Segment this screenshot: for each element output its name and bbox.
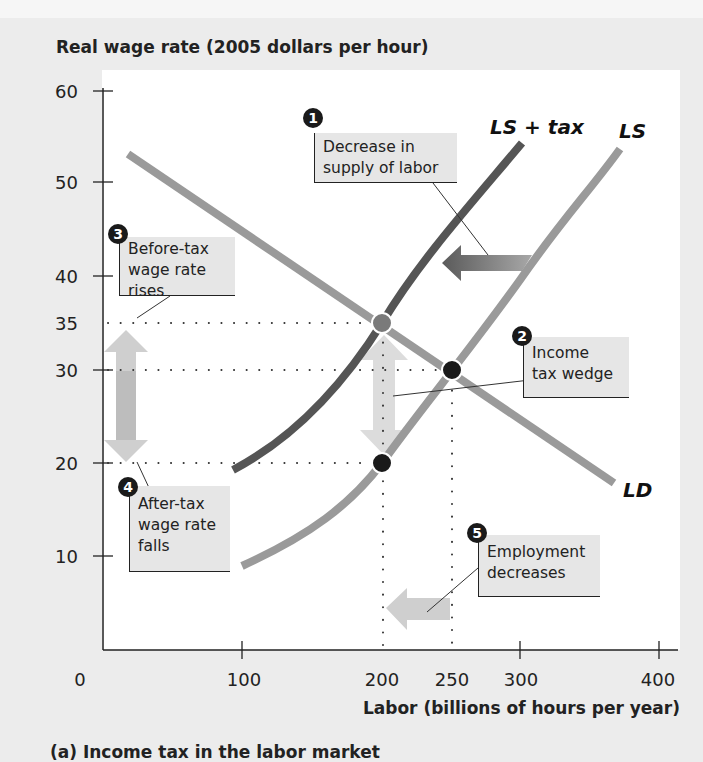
annotation-1-line-1: Decrease in	[323, 137, 449, 158]
ls-label: LS	[619, 119, 646, 143]
y-tick-40: 40	[55, 266, 78, 287]
x-tick-100: 100	[227, 669, 261, 690]
y-tick-50: 50	[55, 172, 78, 193]
annotation-decrease-supply: Decrease in supply of labor	[314, 133, 457, 183]
badge-2: 2	[512, 326, 532, 346]
x-tick-400: 400	[641, 669, 675, 690]
x-tick-200: 200	[365, 669, 399, 690]
ld-label: LD	[623, 478, 652, 502]
employment-decrease-arrow	[386, 588, 450, 630]
badge-3: 3	[108, 224, 128, 244]
annotation-3-line-2: wage rate	[128, 260, 227, 281]
annotation-4-line-1: After-tax	[138, 494, 222, 515]
point-equilibrium-no-tax	[442, 360, 462, 380]
annotation-employment-decreases: Employment decreases	[478, 535, 600, 597]
point-before-tax-wage	[372, 313, 392, 333]
y-tick-35: 35	[55, 313, 78, 334]
annotation-3-line-1: Before-tax	[128, 239, 227, 260]
badge-5: 5	[467, 523, 487, 543]
annotation-2-line-1: Income	[532, 343, 621, 364]
wedge-double-arrow-left	[104, 330, 148, 462]
point-after-tax-wage	[372, 453, 392, 473]
annotation-before-tax-wage-rises: Before-tax wage rate rises	[119, 237, 235, 296]
y-tick-30: 30	[55, 360, 78, 381]
y-tick-10: 10	[55, 546, 78, 567]
y-tick-60: 60	[55, 81, 78, 102]
badge-4: 4	[118, 477, 138, 497]
x-tick-0: 0	[74, 669, 85, 690]
annotation-income-tax-wedge: Income tax wedge	[523, 337, 629, 398]
x-tick-labels: 0 100 200 250 300 400	[74, 669, 675, 690]
badge-1: 1	[303, 108, 323, 128]
annotation-3-line-3: rises	[128, 281, 227, 302]
y-tick-labels: 60 50 40 35 30 20 10	[55, 81, 78, 567]
x-tick-250: 250	[435, 669, 469, 690]
annotation-5-line-1: Employment	[487, 542, 592, 563]
annotation-after-tax-wage-falls: After-tax wage rate falls	[129, 486, 230, 572]
x-tick-300: 300	[504, 669, 538, 690]
ls-tax-label: LS + tax	[490, 115, 585, 139]
y-tick-20: 20	[55, 453, 78, 474]
annotation-1-line-2: supply of labor	[323, 158, 449, 179]
annotation-4-line-3: falls	[138, 536, 222, 557]
annotation-4-line-2: wage rate	[138, 515, 222, 536]
annotation-2-line-2: tax wedge	[532, 364, 621, 385]
annotation-5-line-2: decreases	[487, 563, 592, 584]
